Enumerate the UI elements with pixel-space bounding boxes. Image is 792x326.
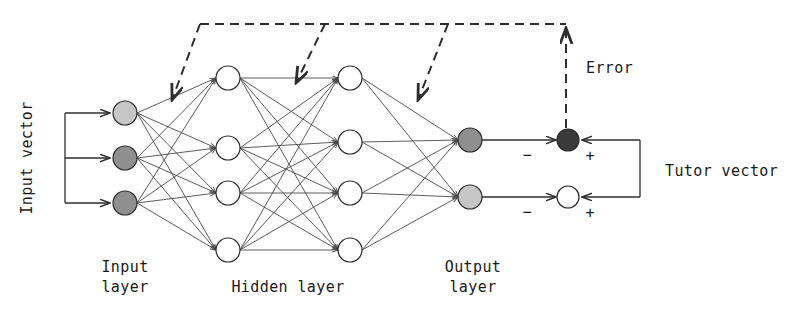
hidden1-node-3[interactable] [216,181,240,205]
tutor-vector-label: Tutor vector [665,162,778,180]
input-layer-label-line2: layer [101,278,148,296]
input-layer-nodes [113,101,137,215]
output-node-2[interactable] [458,185,482,209]
hidden2-node-2[interactable] [338,130,362,154]
comparator-node-bottom[interactable] [557,186,579,208]
hidden2-node-4[interactable] [338,238,362,262]
figure-root: Input vector Error Tutor vector Input la… [0,0,792,326]
minus-sign-top: − [522,146,531,164]
output-layer-label-line1: Output [445,258,502,276]
hidden-layer-label: Hidden layer [231,278,344,296]
hidden1-node-2[interactable] [216,136,240,160]
output-node-1[interactable] [458,128,482,152]
hidden2-node-3[interactable] [338,181,362,205]
plus-sign-bottom: + [585,204,594,222]
input-node-2[interactable] [113,146,137,170]
hidden1-node-1[interactable] [216,66,240,90]
input-node-3[interactable] [113,191,137,215]
hidden2-node-1[interactable] [338,66,362,90]
plus-sign-top: + [585,147,594,165]
input-vector-label: Input vector [18,101,36,214]
hidden1-node-4[interactable] [216,238,240,262]
error-label: Error [586,59,633,77]
input-layer-label-line1: Input [101,258,148,276]
output-layer-label-line2: layer [449,278,496,296]
minus-sign-bottom: − [522,203,531,221]
neural-network-diagram: Input vector Error Tutor vector Input la… [0,0,792,326]
comparator-node-top[interactable] [557,129,579,151]
input-node-1[interactable] [113,101,137,125]
